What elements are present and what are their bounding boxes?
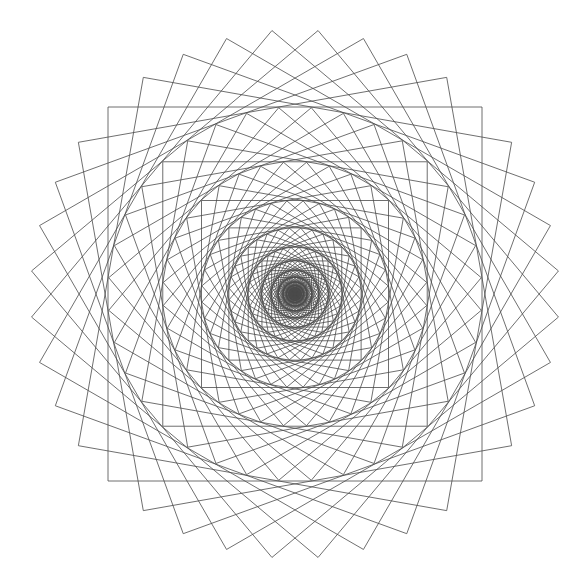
rotated-square xyxy=(126,125,465,464)
rotated-square xyxy=(248,247,341,340)
rotated-square xyxy=(263,262,327,326)
rotated-square xyxy=(229,228,361,360)
rotated-square xyxy=(229,228,361,360)
rotated-square xyxy=(253,252,338,337)
rotated-square xyxy=(202,201,388,387)
rotated-square xyxy=(202,201,389,388)
rotated-square xyxy=(109,108,482,481)
rotated-square xyxy=(108,107,482,481)
rotated-square xyxy=(231,230,359,358)
rotated-square xyxy=(250,249,340,339)
rotated-square xyxy=(229,228,361,360)
rotated-square xyxy=(248,247,341,340)
rotated-square xyxy=(202,201,388,387)
rotated-square xyxy=(235,234,355,354)
rotated-square xyxy=(32,31,559,558)
rotated-square xyxy=(163,162,426,425)
rotated-square xyxy=(235,234,355,354)
rotated-square xyxy=(175,174,415,414)
rotated-square xyxy=(55,54,534,533)
rotated-square xyxy=(253,252,338,337)
rotated-square xyxy=(265,264,325,324)
rotated-square xyxy=(55,54,534,533)
rotated-square xyxy=(205,204,386,385)
rotated-square xyxy=(175,174,415,414)
rotated-square xyxy=(187,186,404,403)
rotated-square xyxy=(142,141,448,447)
rotated-square xyxy=(163,162,427,426)
rotated-square xyxy=(250,249,340,339)
rotated-square xyxy=(142,141,448,447)
rotated-square xyxy=(272,271,317,316)
rotated-square xyxy=(167,166,422,421)
rotated-square xyxy=(32,31,559,558)
rotated-square xyxy=(187,186,404,403)
rotated-square xyxy=(114,113,475,474)
rotated-square xyxy=(40,39,551,550)
rotated-square xyxy=(40,39,551,550)
rotated-square xyxy=(78,77,511,510)
rotated-square xyxy=(210,209,379,378)
rotated-square xyxy=(109,108,482,481)
rotated-square xyxy=(163,162,426,425)
rotated-squares-diagram xyxy=(0,0,585,587)
rotated-square xyxy=(126,125,465,464)
rotated-square xyxy=(210,209,379,378)
rotated-square xyxy=(231,230,359,358)
rotated-square xyxy=(263,262,327,326)
rotated-square xyxy=(78,77,511,510)
rotated-square xyxy=(114,113,475,474)
rotated-square xyxy=(265,264,325,324)
rotated-square xyxy=(205,204,386,385)
square-rings-group xyxy=(32,31,559,558)
rotated-square xyxy=(294,293,296,295)
rotated-square xyxy=(167,166,422,421)
rotated-square xyxy=(272,271,317,316)
